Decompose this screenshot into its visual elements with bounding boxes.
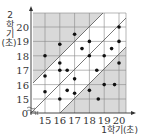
y-tick-label: 18	[16, 51, 29, 62]
data-point	[102, 83, 106, 87]
data-point	[117, 40, 121, 44]
data-point	[88, 54, 92, 58]
data-point	[88, 40, 92, 44]
y-tick-label: 16	[16, 80, 29, 91]
data-point	[58, 68, 62, 72]
data-point	[58, 42, 62, 46]
x-tick-label: 17	[68, 115, 81, 126]
scatter-chart: 1516171819201516171819200 1학기(초)2학기(초)	[0, 0, 141, 134]
data-point	[73, 32, 77, 36]
data-point	[80, 47, 84, 51]
data-point	[65, 89, 69, 93]
data-point	[110, 47, 114, 51]
data-point	[88, 89, 92, 93]
data-point	[43, 74, 47, 78]
y-axis-label-line: 2	[7, 10, 13, 20]
x-tick-label: 18	[83, 115, 96, 126]
shaded-regions	[33, 13, 126, 113]
data-point	[117, 25, 121, 29]
data-point	[65, 68, 69, 72]
data-point	[58, 97, 62, 101]
data-point	[43, 90, 47, 94]
y-tick-label: 19	[16, 36, 29, 47]
y-tick-label: 17	[16, 65, 29, 76]
y-tick-label: 20	[16, 22, 29, 33]
data-point	[73, 91, 77, 95]
y-axis-arrow-icon	[29, 6, 33, 11]
data-point	[58, 61, 62, 65]
x-axis-label: 1학기(초)	[101, 125, 138, 134]
y-tick-label: 15	[16, 94, 29, 105]
data-point	[96, 97, 100, 101]
data-point	[73, 77, 77, 81]
data-point	[102, 54, 106, 58]
x-axis-arrow-icon	[131, 111, 136, 115]
data-point	[43, 54, 47, 58]
x-tick-label: 15	[39, 115, 52, 126]
data-point	[95, 68, 99, 72]
data-point	[117, 61, 121, 65]
x-tick-label: 16	[53, 115, 66, 126]
data-point	[113, 83, 117, 87]
origin-label: 0	[22, 108, 28, 119]
y-axis-label-line: (초)	[1, 38, 16, 48]
